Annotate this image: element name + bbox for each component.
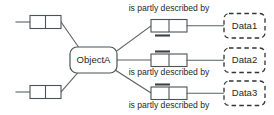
relation-row-data3: Data3 is partly described by [129,81,265,110]
diagram-canvas: ObjectA Data1 is partly described by Dat… [0,0,274,115]
data1-node[interactable]: Data1 [224,14,265,39]
relation-row-data2: Data2 is partly described by [129,48,265,77]
data2-node[interactable]: Data2 [224,48,265,73]
assoc-top-left-group [16,16,61,29]
objecta-label: ObjectA [77,54,111,65]
data2-label: Data2 [232,54,257,65]
data3-node[interactable]: Data3 [224,81,265,106]
data3-label: Data3 [232,87,257,98]
edge-label-data1: is partly described by [129,3,210,13]
assoc-bottom-left-group [16,86,61,99]
edge-label-data2: is partly described by [129,67,210,77]
data1-label: Data1 [232,20,257,31]
edge-objecta-to-assoc-data1 [114,26,151,53]
relation-row-data1: Data1 is partly described by [129,3,265,38]
diagram-svg: ObjectA Data1 is partly described by Dat… [0,0,274,115]
edge-label-data3: is partly described by [129,100,210,110]
objecta-node[interactable]: ObjectA [70,47,117,73]
